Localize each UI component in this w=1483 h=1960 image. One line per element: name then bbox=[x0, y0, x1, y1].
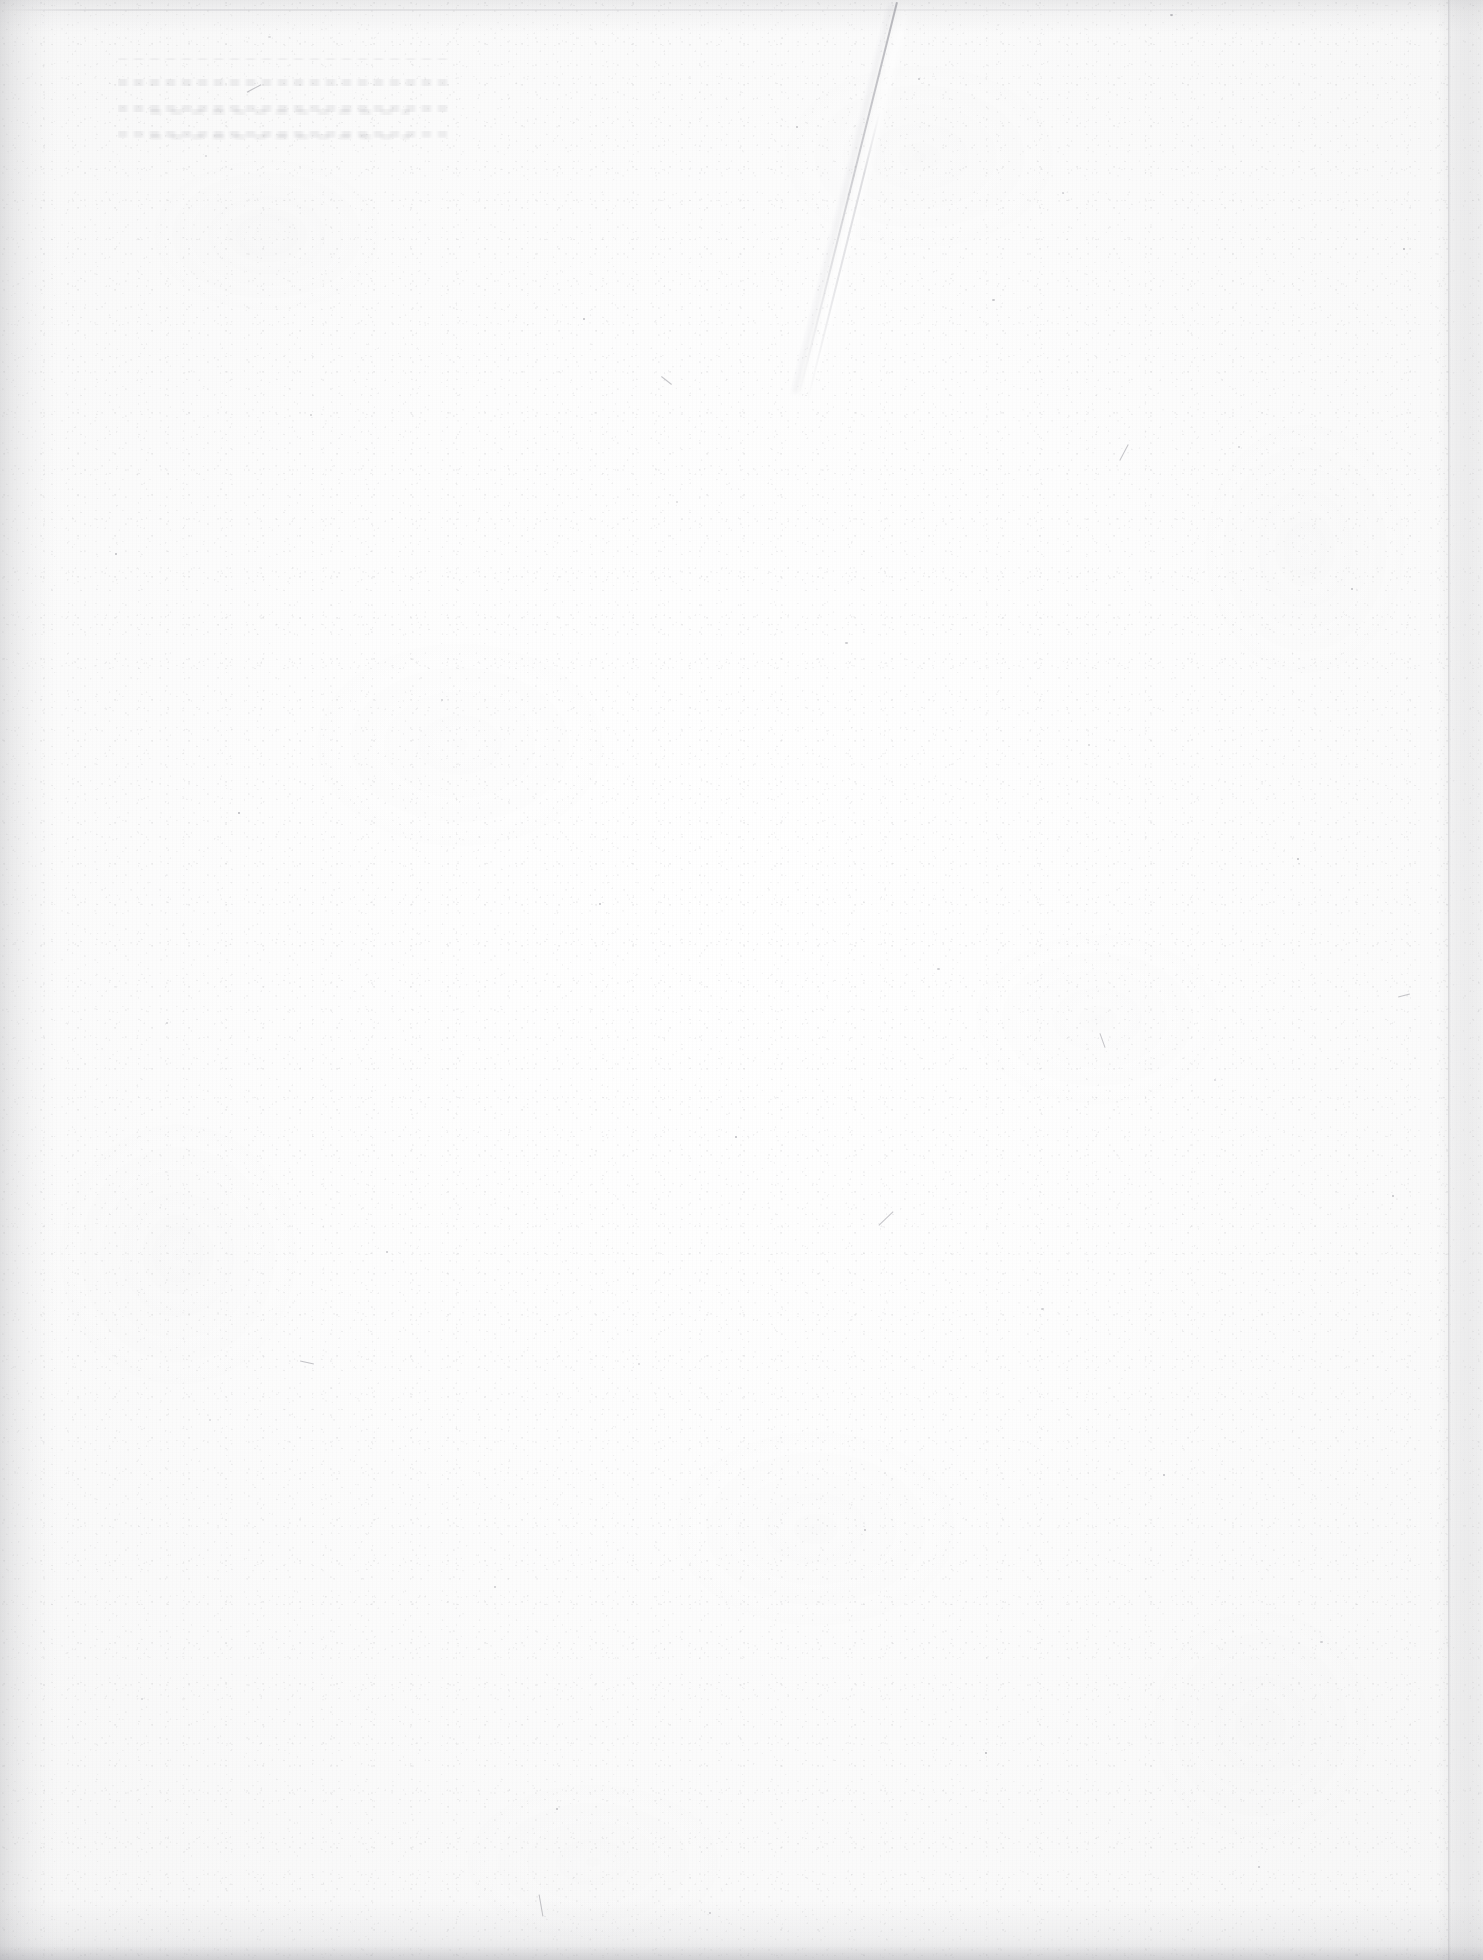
showthrough-ghost-text-lower bbox=[150, 96, 410, 140]
dust-speck bbox=[494, 1586, 496, 1588]
top-edge-shadow bbox=[0, 0, 1483, 34]
dust-speck bbox=[1392, 1195, 1394, 1197]
dust-speck bbox=[205, 155, 207, 157]
dust-speck bbox=[992, 299, 995, 301]
dust-speck bbox=[268, 36, 271, 38]
dust-speck bbox=[845, 642, 848, 644]
right-edge-shadow bbox=[1437, 0, 1483, 1960]
dust-speck bbox=[386, 1251, 388, 1253]
dust-speck bbox=[1351, 588, 1353, 590]
top-edge-hairline bbox=[0, 9, 1483, 11]
paper-grain-fine-weave bbox=[0, 0, 1483, 1960]
dust-speck bbox=[864, 1529, 866, 1531]
dust-speck bbox=[735, 1136, 737, 1138]
dust-speck bbox=[1258, 1866, 1260, 1868]
dust-speck bbox=[1088, 744, 1090, 746]
dust-speck bbox=[985, 1752, 987, 1754]
dust-speck bbox=[1062, 192, 1064, 194]
scanned-page-canvas bbox=[0, 0, 1483, 1960]
dust-speck bbox=[796, 126, 798, 128]
dust-speck bbox=[1403, 248, 1405, 250]
dust-speck bbox=[1320, 1641, 1323, 1643]
dust-speck bbox=[599, 903, 601, 905]
dust-speck bbox=[238, 812, 240, 814]
left-edge-shadow bbox=[0, 0, 58, 1960]
right-page-edge-seam bbox=[1448, 0, 1451, 1960]
dust-speck bbox=[1238, 446, 1240, 448]
dust-speck bbox=[141, 1698, 143, 1700]
dust-speck bbox=[310, 414, 312, 416]
dust-speck bbox=[1163, 1474, 1165, 1476]
dust-speck bbox=[115, 553, 117, 555]
dust-speck bbox=[583, 318, 585, 320]
dust-speck bbox=[1297, 858, 1299, 860]
dust-speck bbox=[209, 1419, 211, 1421]
dust-speck bbox=[676, 501, 678, 503]
dust-speck bbox=[918, 78, 920, 80]
dust-speck bbox=[1041, 1308, 1044, 1310]
dust-speck bbox=[166, 1022, 168, 1024]
dust-speck bbox=[1214, 1079, 1216, 1081]
dust-speck bbox=[638, 1363, 640, 1365]
bottom-edge-band bbox=[0, 1946, 1483, 1960]
dust-speck bbox=[441, 699, 443, 701]
dust-speck bbox=[937, 968, 940, 970]
dust-speck bbox=[556, 1808, 558, 1810]
